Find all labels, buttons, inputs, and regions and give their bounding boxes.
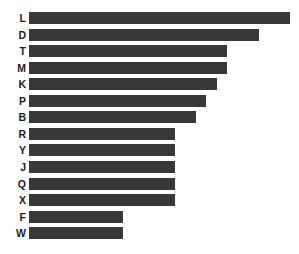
bar-row: B bbox=[0, 111, 299, 123]
bar-track bbox=[29, 62, 290, 74]
bar-track bbox=[29, 111, 290, 123]
bar-category-label: Y bbox=[0, 143, 26, 157]
bar bbox=[29, 95, 206, 107]
bar-row: P bbox=[0, 95, 299, 107]
bar-category-label: B bbox=[0, 110, 26, 124]
bar bbox=[29, 194, 175, 206]
bar-row: W bbox=[0, 227, 299, 239]
bar-track bbox=[29, 29, 290, 41]
bar-row: Y bbox=[0, 144, 299, 156]
bar-chart: LDTMKPBRYJQXFW bbox=[0, 0, 299, 254]
bar-row: X bbox=[0, 194, 299, 206]
bar bbox=[29, 178, 175, 190]
bar-category-label: Q bbox=[0, 177, 26, 191]
bar bbox=[29, 62, 227, 74]
plot-area: LDTMKPBRYJQXFW bbox=[0, 0, 299, 254]
bar bbox=[29, 227, 123, 239]
bar-row: L bbox=[0, 12, 299, 24]
bar-row: J bbox=[0, 161, 299, 173]
bar-category-label: W bbox=[0, 226, 26, 240]
bar-category-label: R bbox=[0, 127, 26, 141]
bar-track bbox=[29, 144, 290, 156]
bar-category-label: K bbox=[0, 77, 26, 91]
bar-row: R bbox=[0, 128, 299, 140]
bar-track bbox=[29, 128, 290, 140]
bar-track bbox=[29, 95, 290, 107]
bar bbox=[29, 45, 227, 57]
bar-category-label: D bbox=[0, 28, 26, 42]
bar-track bbox=[29, 161, 290, 173]
bar-row: Q bbox=[0, 178, 299, 190]
bar-category-label: L bbox=[0, 11, 26, 25]
bar-track bbox=[29, 12, 290, 24]
bar bbox=[29, 144, 175, 156]
bar-category-label: P bbox=[0, 94, 26, 108]
bar-track bbox=[29, 194, 290, 206]
bar-track bbox=[29, 78, 290, 90]
bar-track bbox=[29, 45, 290, 57]
bar bbox=[29, 78, 217, 90]
bar-category-label: M bbox=[0, 61, 26, 75]
bar-category-label: T bbox=[0, 44, 26, 58]
bar-row: K bbox=[0, 78, 299, 90]
bar-row: M bbox=[0, 62, 299, 74]
bar-row: F bbox=[0, 211, 299, 223]
bar bbox=[29, 12, 290, 24]
bar bbox=[29, 128, 175, 140]
bar bbox=[29, 29, 259, 41]
bar-row: T bbox=[0, 45, 299, 57]
bar-track bbox=[29, 178, 290, 190]
bar bbox=[29, 211, 123, 223]
bar-track bbox=[29, 211, 290, 223]
bar-category-label: F bbox=[0, 210, 26, 224]
bar-track bbox=[29, 227, 290, 239]
bar-category-label: J bbox=[0, 160, 26, 174]
bar-category-label: X bbox=[0, 193, 26, 207]
bar bbox=[29, 161, 175, 173]
bar-row: D bbox=[0, 29, 299, 41]
bar bbox=[29, 111, 196, 123]
